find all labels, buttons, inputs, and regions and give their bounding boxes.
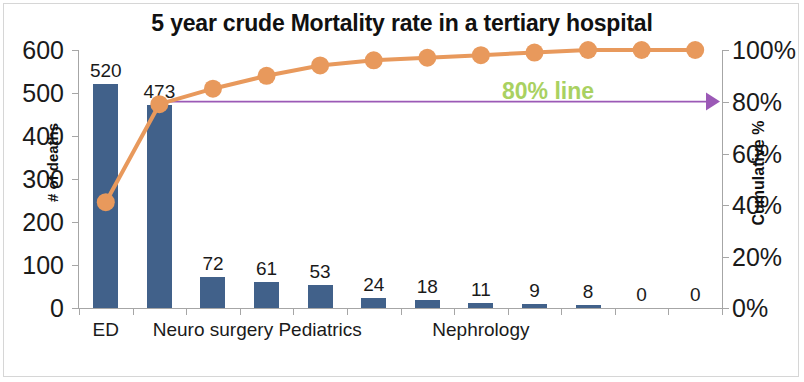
cumulative-data-point: [418, 49, 436, 67]
cumulative-data-point: [204, 80, 222, 98]
eighty-percent-line-label: 80% line: [502, 78, 594, 105]
cumulative-data-point: [579, 41, 597, 59]
cumulative-line-layer: [4, 4, 800, 378]
chart-frame: 5 year crude Mortality rate in a tertiar…: [3, 3, 799, 377]
cumulative-data-point: [150, 95, 168, 113]
cumulative-data-point: [365, 51, 383, 69]
cumulative-data-point: [472, 46, 490, 64]
cumulative-data-point: [97, 193, 115, 211]
eighty-percent-line-arrowhead: [706, 93, 720, 111]
cumulative-data-point: [525, 44, 543, 62]
cumulative-data-point: [633, 41, 651, 59]
cumulative-data-point: [686, 41, 704, 59]
cumulative-data-point: [258, 67, 276, 85]
cumulative-percentage-line: [106, 50, 695, 202]
cumulative-data-point: [311, 56, 329, 74]
